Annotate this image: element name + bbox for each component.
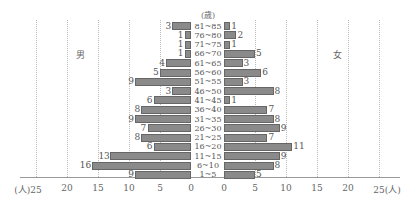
male-value: 7 <box>141 124 147 133</box>
x-tick-left: 15 <box>92 183 103 193</box>
x-tick-right: 15 <box>311 183 322 193</box>
male-label: 男 <box>76 48 85 61</box>
age-group-label: 61~65 <box>192 59 224 68</box>
male-bar <box>141 134 191 142</box>
gridline-right <box>317 20 318 177</box>
female-value: 5 <box>256 170 262 179</box>
male-bar <box>141 106 191 114</box>
age-group-label: 51~55 <box>192 77 224 86</box>
male-value: 3 <box>165 87 171 96</box>
female-bar <box>224 31 236 39</box>
male-bar <box>154 143 191 151</box>
age-group-label: 21~25 <box>192 133 224 142</box>
male-value: 3 <box>165 22 171 31</box>
male-value: 8 <box>134 105 140 114</box>
x-tick-right: 25(人) <box>373 183 400 196</box>
male-bar <box>172 87 191 95</box>
female-value: 8 <box>275 161 281 170</box>
male-value: 8 <box>134 133 140 142</box>
age-group-label: 1~5 <box>192 170 224 179</box>
age-group-label: 81~85 <box>192 22 224 31</box>
male-value: 4 <box>159 59 165 68</box>
male-value: 16 <box>80 161 91 170</box>
male-bar <box>135 78 191 86</box>
female-value: 11 <box>293 142 304 151</box>
male-bar <box>160 69 191 77</box>
age-group-label: 31~35 <box>192 115 224 124</box>
male-bar <box>166 59 191 67</box>
female-bar <box>224 134 267 142</box>
male-value: 6 <box>147 142 153 151</box>
male-value: 6 <box>147 96 153 105</box>
age-group-label: 11~15 <box>192 152 224 161</box>
female-value: 3 <box>244 59 250 68</box>
x-tick-left: (人)25 <box>14 183 41 196</box>
age-group-label: 46~50 <box>192 87 224 96</box>
female-label: 女 <box>333 48 342 61</box>
male-value: 1 <box>178 49 184 58</box>
female-value: 1 <box>231 96 237 105</box>
male-bar <box>154 96 191 104</box>
female-bar <box>224 41 230 49</box>
female-value: 9 <box>281 152 287 161</box>
age-group-label: 71~75 <box>192 40 224 49</box>
x-tick-left: 5 <box>157 183 163 193</box>
male-value: 5 <box>153 68 159 77</box>
x-tick-left: 0 <box>188 183 194 193</box>
female-bar <box>224 106 267 114</box>
male-bar <box>172 22 191 30</box>
female-bar <box>224 69 261 77</box>
female-bar <box>224 171 255 179</box>
female-bar <box>224 152 280 160</box>
x-tick-right: 10 <box>280 183 291 193</box>
age-group-label: 36~40 <box>192 105 224 114</box>
female-value: 8 <box>275 87 281 96</box>
female-bar <box>224 78 243 86</box>
male-value: 9 <box>128 170 134 179</box>
female-bar <box>224 162 274 170</box>
female-bar <box>224 124 280 132</box>
x-tick-left: 20 <box>61 183 72 193</box>
x-tick-left: 10 <box>123 183 134 193</box>
male-bar <box>135 115 191 123</box>
female-value: 7 <box>268 105 274 114</box>
gridline-left <box>36 20 37 177</box>
age-group-label: 26~30 <box>192 124 224 133</box>
male-bar <box>92 162 191 170</box>
gridline-right <box>348 20 349 177</box>
female-value: 5 <box>256 49 262 58</box>
female-value: 7 <box>268 133 274 142</box>
x-tick-right: 5 <box>252 183 258 193</box>
x-tick-right: 0 <box>221 183 227 193</box>
female-value: 1 <box>231 22 237 31</box>
x-tick-right: 20 <box>342 183 353 193</box>
male-bar <box>185 41 191 49</box>
female-value: 6 <box>262 68 268 77</box>
female-bar <box>224 115 274 123</box>
male-bar <box>185 50 191 58</box>
female-value: 3 <box>244 77 250 86</box>
age-group-label: 56~60 <box>192 68 224 77</box>
female-bar <box>224 50 255 58</box>
gridline-right <box>379 20 380 177</box>
male-bar <box>110 152 191 160</box>
age-group-label: 66~70 <box>192 49 224 58</box>
age-group-label: 16~20 <box>192 142 224 151</box>
age-group-label: 76~80 <box>192 31 224 40</box>
female-bar <box>224 87 274 95</box>
age-group-label: 6~10 <box>192 161 224 170</box>
female-value: 1 <box>231 40 237 49</box>
male-bar <box>185 31 191 39</box>
age-unit-label: (歳) <box>192 9 224 20</box>
female-value: 2 <box>237 31 243 40</box>
female-value: 9 <box>281 124 287 133</box>
male-value: 9 <box>128 77 134 86</box>
female-value: 8 <box>275 115 281 124</box>
male-bar <box>148 124 191 132</box>
male-value: 13 <box>98 152 109 161</box>
age-group-label: 41~45 <box>192 96 224 105</box>
gridline-left <box>67 20 68 177</box>
female-bar <box>224 59 243 67</box>
male-bar <box>135 171 191 179</box>
female-bar <box>224 96 230 104</box>
